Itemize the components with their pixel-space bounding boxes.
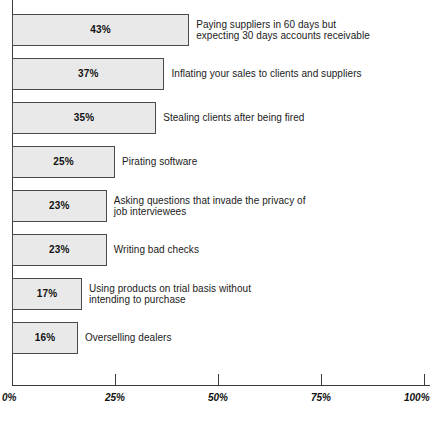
x-axis-tick-mark: [218, 374, 219, 385]
x-axis-tick-label: 100%: [404, 392, 430, 403]
x-axis-ticks-container: 0%25%50%75%100%: [0, 0, 444, 422]
x-axis-tick-label: 75%: [311, 392, 331, 403]
x-axis-tick-label: 25%: [105, 392, 125, 403]
x-axis-tick-label: 0%: [2, 392, 16, 403]
x-axis-tick-mark: [115, 374, 116, 385]
horizontal-bar-chart: 43%Paying suppliers in 60 days but expec…: [0, 0, 444, 422]
x-axis-tick-mark: [424, 374, 425, 385]
x-axis-tick-label: 50%: [208, 392, 228, 403]
x-axis-tick-mark: [321, 374, 322, 385]
